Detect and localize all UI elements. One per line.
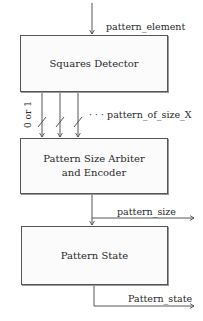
pattern-state-block: Pattern State <box>21 226 168 285</box>
arbiter-encoder-label-line2: and Encoder <box>62 166 126 180</box>
bus-signal-label: · · · pattern_of_size_X <box>89 109 192 120</box>
squares-detector-label: Squares Detector <box>50 57 139 71</box>
arbiter-encoder-label-line1: Pattern Size Arbiter <box>43 152 144 166</box>
squares-detector-block: Squares Detector <box>20 35 168 92</box>
input-signal-label: pattern_element <box>106 21 185 32</box>
arbiter-encoder-block: Pattern Size Arbiter and Encoder <box>20 138 168 194</box>
pattern-state-label: Pattern State <box>61 249 128 263</box>
bus-width-label: 0 or 1 <box>23 101 33 128</box>
bus-arrows <box>38 92 82 137</box>
pattern-state-output-label: Pattern_state <box>128 293 192 304</box>
pattern-size-label: pattern_size <box>117 206 176 217</box>
